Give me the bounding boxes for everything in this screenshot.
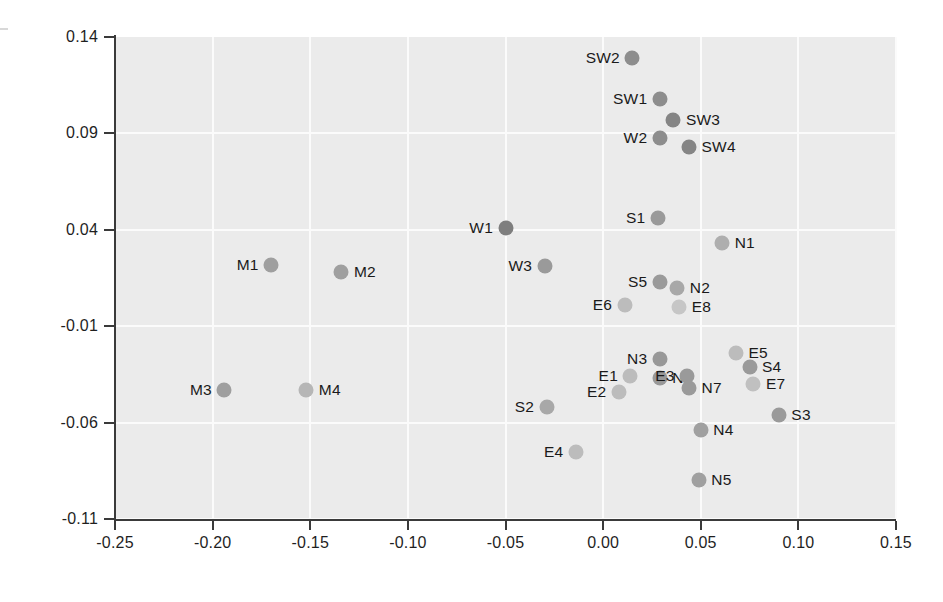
data-point[interactable] [652,274,667,289]
x-axis-tick-label: -0.10 [389,534,426,552]
data-point-label: N7 [702,379,722,397]
data-point-label: W1 [469,219,493,237]
data-point[interactable] [537,259,552,274]
data-point-label: SW3 [686,111,720,129]
data-point[interactable] [691,473,706,488]
y-axis-tick [104,325,114,327]
data-point[interactable] [498,220,513,235]
x-axis-tick [309,521,311,530]
x-axis-tick [895,521,897,530]
y-axis-tick-label: 0.09 [66,124,98,142]
data-point[interactable] [666,112,681,127]
scatter-plot-figure: SW2SW1SW3W2SW4S1W1N1M1W3M2S5N2E6E8E5N3M3… [0,0,943,602]
data-point-label: S2 [515,398,534,416]
data-point[interactable] [742,359,757,374]
data-point-label: SW2 [586,49,620,67]
gridline-horizontal [115,325,896,327]
x-axis-tick-label: 0.15 [880,534,912,552]
gridline-vertical [602,37,604,519]
data-point[interactable] [771,407,786,422]
x-axis-tick [114,521,116,530]
data-point-label: SW4 [702,138,736,156]
gridline-horizontal [115,132,896,134]
y-axis-tick [104,36,114,38]
data-point-label: S4 [762,358,781,376]
data-point-label: W3 [508,257,532,275]
data-point[interactable] [652,131,667,146]
data-point[interactable] [568,444,583,459]
data-point[interactable] [611,384,626,399]
data-point[interactable] [670,280,685,295]
y-axis-tick-label: -0.11 [62,510,98,528]
data-point[interactable] [652,351,667,366]
gridline-vertical [505,37,507,519]
y-axis-tick [104,518,114,520]
data-point-label: M3 [190,381,212,399]
data-point[interactable] [539,400,554,415]
data-point[interactable] [682,380,697,395]
y-axis-tick-labels: 0.140.090.04-0.01-0.06-0.11 [0,0,98,602]
data-point-label: N5 [711,471,731,489]
data-point-label: S3 [791,406,810,424]
data-point-label: S1 [626,209,645,227]
data-point-label: M1 [237,256,259,274]
data-point[interactable] [693,423,708,438]
x-axis-tick [407,521,409,530]
gridline-vertical [407,37,409,519]
y-axis-line [114,35,116,521]
data-point[interactable] [728,346,743,361]
y-axis-tick-label: 0.14 [66,28,98,46]
x-axis-tick-label: -0.25 [96,534,133,552]
data-point[interactable] [617,297,632,312]
x-axis-tick-label: -0.05 [487,534,524,552]
gridline-vertical [797,37,799,519]
x-axis-tick [797,521,799,530]
data-point[interactable] [217,382,232,397]
data-point-label: M4 [319,381,341,399]
data-point-label: E4 [544,443,563,461]
plot-area: SW2SW1SW3W2SW4S1W1N1M1W3M2S5N2E6E8E5N3M3… [115,37,896,519]
x-axis-tick-label: 0.00 [587,534,619,552]
gridline-vertical [895,37,897,519]
x-axis-tick [212,521,214,530]
data-point[interactable] [672,299,687,314]
y-axis-tick-label: -0.01 [61,317,98,335]
y-axis-tick-label: 0.04 [66,221,98,239]
data-point-label: N2 [690,279,710,297]
data-point-label: N1 [735,234,755,252]
data-point[interactable] [264,257,279,272]
gridline-vertical [212,37,214,519]
data-point-label: M2 [354,263,376,281]
data-point-label: S5 [628,273,647,291]
data-point[interactable] [299,382,314,397]
data-point-label: E3 [655,367,674,385]
x-axis-tick-label: -0.15 [292,534,329,552]
data-point[interactable] [625,51,640,66]
data-point[interactable] [650,211,665,226]
data-point-label: SW1 [613,90,647,108]
x-axis-tick [505,521,507,530]
x-axis-tick [602,521,604,530]
data-point-label: E7 [766,375,785,393]
data-point-label: E2 [587,383,606,401]
data-point-label: E8 [692,298,711,316]
y-axis-tick [104,229,114,231]
x-axis-tick-label: 0.10 [782,534,814,552]
data-point-label: E6 [593,296,612,314]
data-point-label: N4 [713,421,733,439]
x-axis-tick [700,521,702,530]
data-point[interactable] [746,377,761,392]
data-point[interactable] [715,236,730,251]
data-point[interactable] [623,369,638,384]
y-axis-tick [104,422,114,424]
gridline-vertical [309,37,311,519]
y-axis-tick [104,132,114,134]
x-axis-tick-label: 0.05 [685,534,717,552]
data-point-label: N3 [627,350,647,368]
data-point[interactable] [652,91,667,106]
y-axis-tick-label: -0.06 [61,414,98,432]
x-axis-tick-label: -0.20 [194,534,231,552]
data-point[interactable] [334,265,349,280]
data-point-label: W2 [624,129,648,147]
data-point[interactable] [682,139,697,154]
